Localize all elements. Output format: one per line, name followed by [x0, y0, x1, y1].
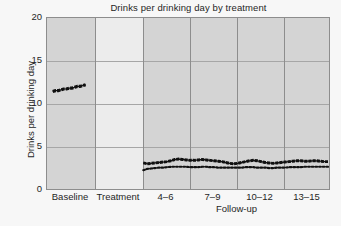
x-tick-label-13-15: 13–15 — [283, 191, 330, 203]
y-tick-label: 15 — [18, 55, 42, 65]
y-axis-tick-labels: 20 15 10 5 0 — [18, 0, 42, 226]
series-plot — [47, 18, 329, 189]
y-tick-label: 10 — [18, 98, 42, 108]
baseline-series-line — [53, 85, 86, 92]
y-tick-label: 5 — [18, 141, 42, 151]
plot-area — [46, 17, 330, 190]
x-tick-label-4-6: 4–6 — [142, 191, 189, 203]
lower-series-dotted — [143, 167, 328, 170]
x-tick-label-baseline: Baseline — [46, 191, 94, 203]
x-tick-label-treatment: Treatment — [94, 191, 142, 203]
x-tick-label-7-9: 7–9 — [189, 191, 236, 203]
upper-series-line — [143, 159, 328, 164]
y-tick-label: 0 — [18, 184, 42, 194]
x-tick-label-10-12: 10–12 — [236, 191, 283, 203]
chart-figure: Drinks per drinking day by treatment Dri… — [0, 0, 341, 226]
y-tick-label: 20 — [18, 12, 42, 22]
x-axis-title: Follow-up — [143, 203, 330, 214]
chart-title: Drinks per drinking day by treatment — [46, 1, 331, 14]
